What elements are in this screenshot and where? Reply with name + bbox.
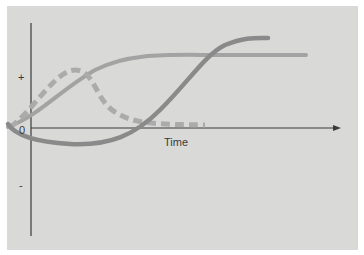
y-label-plus: + — [18, 71, 24, 83]
chart-svg: + 0 - Time — [0, 0, 364, 255]
x-axis-label: Time — [164, 136, 188, 148]
curve-transient-dashed — [10, 70, 205, 127]
y-label-minus: - — [19, 179, 23, 191]
curve-saturating — [8, 55, 306, 127]
x-axis-arrow-icon — [333, 125, 341, 131]
y-label-zero: 0 — [19, 124, 25, 136]
